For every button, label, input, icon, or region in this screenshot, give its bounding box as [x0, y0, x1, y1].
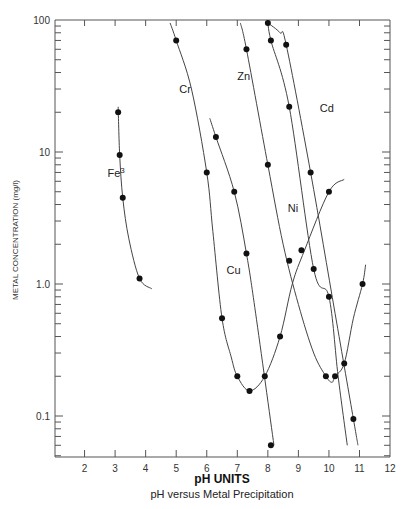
chart-caption: pH versus Metal Precipitation — [150, 488, 293, 500]
data-points — [115, 20, 365, 448]
y-axis-title: METAL CONCENTRATION (mg/l) — [11, 180, 20, 300]
metal-precipitation-chart: 234567891011120.11.010100 Fe3CrZnCdNiCu … — [0, 0, 407, 509]
data-point-ni — [311, 266, 317, 272]
data-point-zn — [341, 360, 347, 366]
curve-label-cu: Cu — [227, 264, 241, 276]
data-point-fe3 — [120, 195, 126, 201]
data-point-fe3 — [117, 152, 123, 158]
data-point-cu — [231, 189, 237, 195]
x-axis-title: pH UNITS — [194, 472, 249, 486]
x-tick-label: 11 — [354, 463, 365, 474]
data-point-cr — [219, 315, 225, 321]
data-point-zn — [360, 281, 366, 287]
data-point-zn — [298, 247, 304, 253]
curves — [118, 20, 365, 445]
curve-label-ni: Ni — [288, 202, 298, 214]
data-point-cd — [350, 416, 356, 422]
x-tick-label: 5 — [173, 463, 179, 474]
data-point-zn — [286, 258, 292, 264]
data-point-fe3 — [137, 276, 143, 282]
data-point-cr — [262, 373, 268, 379]
data-point-zn — [332, 373, 338, 379]
data-point-cd — [308, 169, 314, 175]
data-point-cr — [234, 373, 240, 379]
x-tick-label: 4 — [143, 463, 149, 474]
data-point-ni — [326, 294, 332, 300]
x-tick-label: 10 — [323, 463, 335, 474]
data-point-ni — [286, 104, 292, 110]
y-tick-label: 0.1 — [36, 411, 50, 422]
data-point-cd — [265, 20, 271, 26]
curve-ni — [268, 20, 347, 445]
curve-label-fe: Fe3 — [107, 166, 125, 179]
x-tick-label: 9 — [296, 463, 302, 474]
curve-label-cd: Cd — [320, 102, 334, 114]
y-tick-label: 100 — [33, 15, 50, 26]
curve-cr — [170, 23, 344, 391]
data-point-zn — [323, 373, 329, 379]
data-point-cr — [247, 388, 253, 394]
data-point-cr — [277, 334, 283, 340]
data-point-cr — [204, 169, 210, 175]
x-tick-label: 8 — [265, 463, 271, 474]
x-tick-label: 12 — [384, 463, 396, 474]
data-point-cu — [213, 134, 219, 140]
curve-label-cr: Cr — [179, 83, 191, 95]
curve-labels: Fe3CrZnCdNiCu — [107, 70, 333, 275]
y-tick-label: 1.0 — [36, 279, 50, 290]
curve-label-zn: Zn — [237, 70, 250, 82]
x-tick-label: 2 — [82, 463, 88, 474]
data-point-cd — [283, 42, 289, 48]
curve-cu — [210, 118, 274, 445]
data-point-cr — [173, 37, 179, 43]
data-point-ni — [268, 37, 274, 43]
data-point-cu — [243, 251, 249, 257]
y-tick-label: 10 — [39, 147, 51, 158]
x-tick-label: 3 — [112, 463, 118, 474]
data-point-zn — [243, 46, 249, 52]
data-point-cu — [268, 442, 274, 448]
data-point-zn — [265, 162, 271, 168]
data-point-fe3 — [115, 109, 121, 115]
data-point-cr — [326, 189, 332, 195]
